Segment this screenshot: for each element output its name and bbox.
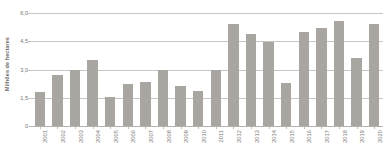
bar (52, 75, 63, 126)
x-tick-mark (93, 127, 94, 129)
bar (140, 82, 151, 126)
y-tick-label: 1,5 (20, 95, 28, 101)
bar (351, 58, 362, 126)
bar (123, 84, 134, 126)
x-tick-label: 2008 (166, 130, 172, 156)
bar (70, 70, 81, 127)
x-tick-mark (251, 127, 252, 129)
y-axis-tick-labels: 01,53,04,56,0 (13, 0, 30, 127)
x-axis-tick-labels: 2001200220032004200520062007200820092010… (31, 127, 383, 156)
x-tick-label: 2007 (148, 130, 154, 156)
y-tick-label: 6,0 (20, 10, 28, 16)
x-tick-mark (110, 127, 111, 129)
x-tick-mark (145, 127, 146, 129)
y-axis-title-label: Milhões de hectares (4, 37, 10, 91)
bar (175, 86, 186, 126)
x-tick-label: 2019 (359, 130, 365, 156)
bar (334, 21, 345, 126)
x-tick-mark (128, 127, 129, 129)
x-tick-mark (40, 127, 41, 129)
bar (211, 70, 222, 127)
bar (193, 91, 204, 126)
bar (246, 34, 257, 126)
x-tick-label: 2018 (342, 130, 348, 156)
x-tick-label: 2005 (113, 130, 119, 156)
x-tick-mark (75, 127, 76, 129)
x-tick-mark (339, 127, 340, 129)
x-tick-label: 2016 (306, 130, 312, 156)
bar (299, 32, 310, 126)
x-tick-mark (321, 127, 322, 129)
y-tick-label: 4,5 (20, 38, 28, 44)
x-tick-mark (181, 127, 182, 129)
x-tick-mark (357, 127, 358, 129)
bar-chart: Milhões de hectares 01,53,04,56,0 200120… (0, 0, 385, 156)
x-tick-label: 2012 (236, 130, 242, 156)
x-tick-mark (286, 127, 287, 129)
x-tick-label: 2001 (42, 130, 48, 156)
x-tick-mark (163, 127, 164, 129)
y-tick-label: 3,0 (20, 67, 28, 73)
x-tick-label: 2010 (201, 130, 207, 156)
x-tick-label: 2004 (95, 130, 101, 156)
x-tick-mark (374, 127, 375, 129)
bar (316, 28, 327, 126)
y-axis-title: Milhões de hectares (0, 0, 14, 127)
x-tick-mark (57, 127, 58, 129)
x-tick-label: 2020 (377, 130, 383, 156)
x-tick-label: 2002 (60, 130, 66, 156)
plot-area (31, 0, 383, 127)
x-tick-mark (269, 127, 270, 129)
x-tick-label: 2014 (271, 130, 277, 156)
x-tick-label: 2003 (78, 130, 84, 156)
bar (158, 70, 169, 127)
x-tick-mark (233, 127, 234, 129)
x-tick-mark (198, 127, 199, 129)
x-tick-label: 2009 (183, 130, 189, 156)
x-tick-label: 2006 (130, 130, 136, 156)
bar (87, 60, 98, 126)
x-tick-mark (216, 127, 217, 129)
x-tick-label: 2017 (324, 130, 330, 156)
bar (105, 97, 116, 126)
x-tick-mark (304, 127, 305, 129)
bar (263, 42, 274, 126)
bar (35, 92, 46, 126)
x-tick-label: 2011 (218, 130, 224, 156)
bar (281, 83, 292, 126)
bar (369, 24, 380, 126)
bar (228, 24, 239, 126)
x-tick-label: 2013 (254, 130, 260, 156)
x-tick-label: 2015 (289, 130, 295, 156)
bar-series (31, 0, 383, 127)
